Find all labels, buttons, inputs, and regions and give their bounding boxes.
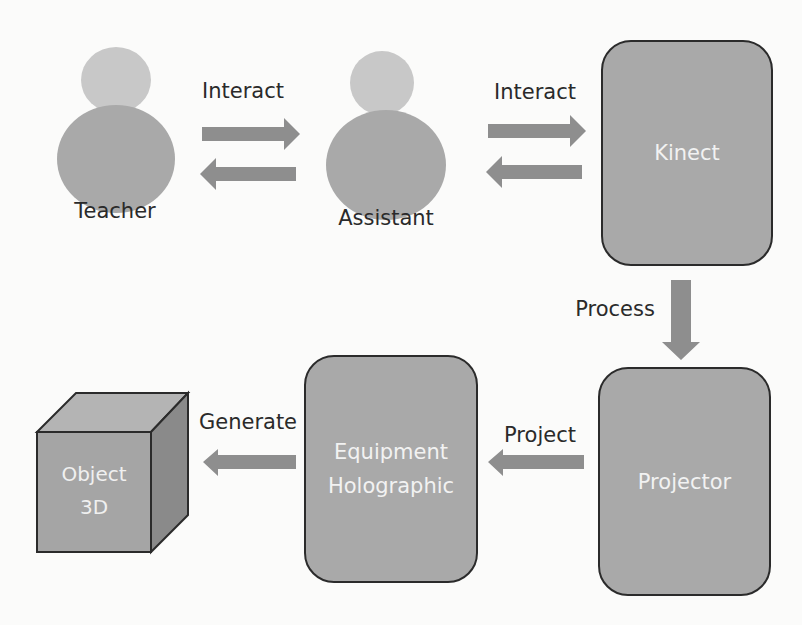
arrow-right-teacher-to-assistant: [202, 118, 300, 150]
projector-label: Projector: [638, 465, 731, 499]
teacher-body-icon: [57, 105, 175, 213]
object3d-label-line2: 3D: [38, 491, 150, 524]
assistant-body-icon: [326, 110, 446, 220]
arrow-down-kinect-to-projector: [662, 280, 700, 360]
interact-label-1: Interact: [202, 79, 284, 103]
kinect-node: Kinect: [601, 40, 773, 266]
arrow-right-assistant-to-kinect: [488, 115, 586, 147]
arrow-left-assistant-to-teacher: [200, 158, 296, 190]
arrow-left-kinect-to-assistant: [486, 156, 582, 188]
equipment-label-line1: Equipment: [328, 435, 454, 469]
teacher-head-icon: [81, 47, 151, 113]
object3d-label-line1: Object: [38, 458, 150, 491]
project-label: Project: [504, 423, 576, 447]
assistant-head-icon: [350, 51, 414, 115]
object3d-node: Object 3D: [38, 458, 150, 524]
teacher-label: Teacher: [74, 199, 155, 223]
arrow-left-projector-to-equipment: [488, 449, 584, 476]
assistant-label: Assistant: [338, 206, 434, 230]
projector-node: Projector: [598, 367, 771, 596]
kinect-label: Kinect: [654, 136, 720, 170]
equipment-holographic-node: Equipment Holographic: [304, 355, 478, 583]
interact-label-2: Interact: [494, 80, 576, 104]
equipment-label-line2: Holographic: [328, 469, 454, 503]
arrow-left-equipment-to-object: [203, 449, 296, 476]
generate-label: Generate: [199, 410, 297, 434]
process-label: Process: [575, 297, 655, 321]
